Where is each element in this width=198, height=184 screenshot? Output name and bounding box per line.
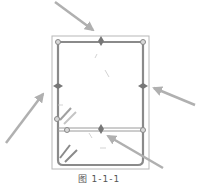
arrow-bottom-right	[108, 136, 163, 168]
dimension-marks	[58, 54, 109, 148]
stirrup	[58, 42, 143, 165]
hook-lower-1	[60, 145, 70, 158]
arrow-right	[154, 88, 195, 105]
arrows	[6, 2, 195, 168]
hook-lower-2	[65, 150, 77, 162]
arrow-top	[55, 2, 93, 30]
spacer-clips	[53, 36, 148, 134]
arrow-left	[6, 94, 43, 143]
rebar-section-diagram	[0, 0, 198, 184]
figure-caption: 图 1-1-1	[0, 172, 198, 184]
